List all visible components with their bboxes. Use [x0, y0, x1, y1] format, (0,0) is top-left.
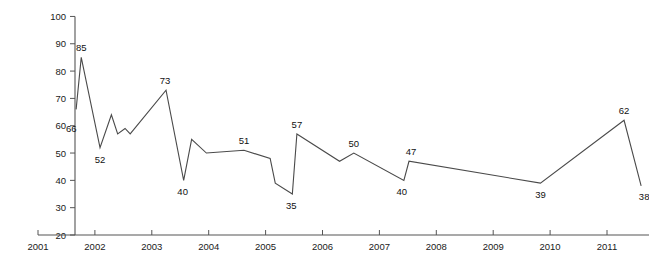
- y-tick-label: 30: [55, 202, 66, 213]
- x-tick-label: 2007: [369, 241, 390, 252]
- x-tick-label: 2004: [198, 241, 219, 252]
- x-tick-label: 2006: [312, 241, 333, 252]
- y-tick-label: 60: [55, 120, 66, 131]
- data-label-39: 39: [535, 189, 546, 200]
- data-label-66: 66: [66, 123, 77, 134]
- x-tick-label: 2009: [483, 241, 504, 252]
- y-tick-label: 80: [55, 66, 66, 77]
- data-label-85: 85: [76, 42, 87, 53]
- data-label-50: 50: [349, 138, 360, 149]
- data-label-51: 51: [239, 135, 250, 146]
- chart-canvas: 2030405060708090100 20012002200320042005…: [0, 0, 649, 259]
- y-tick-label: 100: [50, 11, 66, 22]
- x-tick-label: 2002: [84, 241, 105, 252]
- x-tick-label: 2001: [27, 241, 48, 252]
- data-label-38: 38: [639, 191, 649, 202]
- data-label-57: 57: [292, 119, 303, 130]
- data-label-35: 35: [286, 200, 297, 211]
- x-axis: 2001200220032004200520062007200820092010…: [27, 230, 649, 252]
- x-tick-label: 2010: [540, 241, 561, 252]
- line-chart: 2030405060708090100 20012002200320042005…: [0, 0, 649, 259]
- data-label-73: 73: [160, 75, 171, 86]
- y-tick-label: 70: [55, 93, 66, 104]
- x-tick-label: 2003: [141, 241, 162, 252]
- y-tick-label: 50: [55, 148, 66, 159]
- x-tick-label: 2008: [426, 241, 447, 252]
- data-label-40: 40: [177, 186, 188, 197]
- data-label-52: 52: [95, 154, 106, 165]
- x-tick-label: 2011: [597, 241, 617, 252]
- data-label-62: 62: [619, 105, 630, 116]
- data-label-47: 47: [406, 146, 417, 157]
- y-tick-label: 90: [55, 38, 66, 49]
- data-label-40: 40: [397, 186, 408, 197]
- y-tick-label: 40: [55, 175, 66, 186]
- data-point-labels: 6685527340513557504047396238: [66, 42, 649, 211]
- x-tick-label: 2005: [255, 241, 276, 252]
